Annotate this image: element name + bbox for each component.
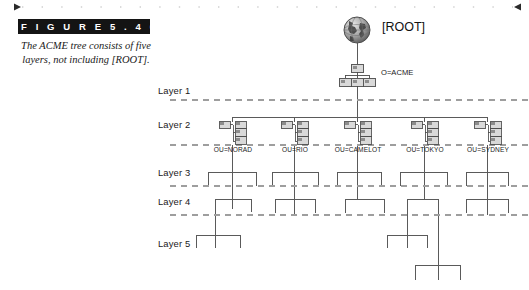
subtree-tokyo	[387, 145, 460, 280]
organization-label: O=ACME	[381, 68, 413, 77]
layer-label-1: Layer 1	[158, 85, 190, 96]
ou-container-icon	[411, 121, 438, 144]
ou-container-icon	[344, 121, 371, 144]
layer-label-3: Layer 3	[158, 167, 190, 178]
ou-label-rio: OU=RIO	[282, 146, 308, 153]
subtree-camelot	[337, 145, 384, 213]
organization-tree-icon	[339, 64, 375, 86]
layer-label-4: Layer 4	[158, 196, 190, 207]
ou-container-icon	[281, 121, 308, 144]
acme-tree-diagram	[0, 0, 529, 290]
subtree-sydney	[466, 145, 508, 215]
ou-label-camelot: OU=CAMELOT	[335, 146, 382, 153]
layer-label-2: Layer 2	[158, 119, 190, 130]
ou-label-norad: OU=NORAD	[214, 146, 252, 153]
globe-icon	[344, 17, 370, 43]
layer-label-5: Layer 5	[158, 238, 190, 249]
ou-container-icon	[474, 121, 501, 144]
ou-label-sydney: OU=SYDNEY	[467, 146, 509, 153]
ou-label-tokyo: OU=TOKYO	[406, 146, 444, 153]
subtree-rio	[272, 145, 318, 215]
ou-container-icon	[219, 121, 246, 144]
subtree-norad	[196, 145, 256, 248]
root-label: [ROOT]	[382, 20, 425, 34]
